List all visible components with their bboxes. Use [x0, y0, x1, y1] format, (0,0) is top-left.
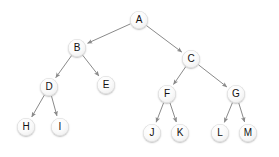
tree-node-label: L: [217, 128, 223, 138]
tree-node-label: A: [136, 15, 143, 25]
tree-node-j[interactable]: J: [143, 124, 161, 142]
tree-node-label: E: [103, 80, 110, 90]
tree-node-b[interactable]: B: [68, 39, 86, 57]
tree-node-d[interactable]: D: [40, 78, 58, 96]
tree-node-label: M: [244, 128, 252, 138]
tree-node-label: F: [164, 89, 170, 99]
tree-node-label: J: [150, 128, 155, 138]
tree-node-f[interactable]: F: [158, 85, 176, 103]
node-layer: ABCDEFGHIJKLM: [0, 0, 279, 157]
binary-tree-diagram: ABCDEFGHIJKLM: [0, 0, 279, 157]
tree-node-m[interactable]: M: [239, 124, 257, 142]
tree-node-label: H: [22, 122, 29, 132]
tree-node-label: G: [232, 89, 240, 99]
tree-node-label: D: [45, 82, 52, 92]
tree-node-g[interactable]: G: [227, 85, 245, 103]
tree-node-label: K: [177, 128, 184, 138]
tree-node-a[interactable]: A: [130, 11, 148, 29]
tree-node-label: C: [187, 54, 194, 64]
tree-node-i[interactable]: I: [51, 118, 69, 136]
tree-node-label: B: [74, 43, 81, 53]
tree-node-l[interactable]: L: [211, 124, 229, 142]
tree-node-k[interactable]: K: [171, 124, 189, 142]
tree-node-c[interactable]: C: [182, 50, 200, 68]
tree-node-h[interactable]: H: [17, 118, 35, 136]
tree-node-label: I: [59, 122, 62, 132]
tree-node-e[interactable]: E: [97, 76, 115, 94]
